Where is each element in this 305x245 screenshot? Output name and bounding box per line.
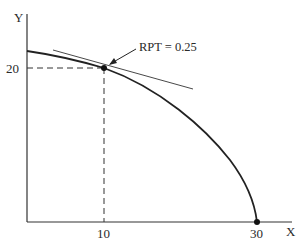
arrow-head-icon — [109, 58, 117, 65]
x-axis-label: X — [286, 225, 295, 238]
y-tick-20: 20 — [6, 62, 19, 75]
y-axis-label: Y — [14, 11, 23, 24]
rpt-annotation: RPT = 0.25 — [139, 41, 197, 54]
chart-canvas — [0, 0, 305, 245]
x-tick-10: 10 — [97, 227, 110, 240]
x-tick-30: 30 — [250, 227, 263, 240]
x-intercept-point — [254, 219, 260, 225]
tangent-point — [101, 65, 107, 71]
frontier-curve — [27, 51, 257, 222]
tangent-line — [53, 50, 193, 89]
